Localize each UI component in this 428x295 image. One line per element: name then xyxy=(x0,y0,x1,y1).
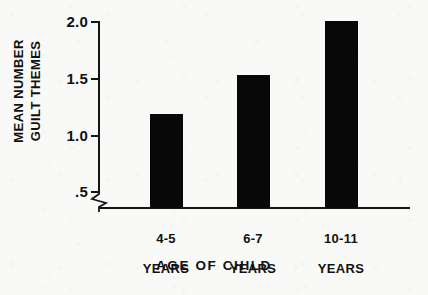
y-tick-label-1-0: 1.0 xyxy=(67,128,88,143)
x-tick-label-10-11-years-line-1: 10-11 xyxy=(291,231,391,246)
x-tick-label-10-11-years: 10-11 YEARS xyxy=(291,216,391,291)
x-axis-title: AGE OF CHILD xyxy=(0,258,428,273)
axis-break-icon xyxy=(88,186,110,212)
x-tick-label-4-5-years-line-1: 4-5 xyxy=(116,231,216,246)
y-tick-label-2-0-wrap: 2.0 xyxy=(52,14,88,28)
y-axis-title-line-2: GUILT THEMES xyxy=(27,26,44,156)
y-tick-label-0-5: .5 xyxy=(75,184,88,199)
bar-6-7-years xyxy=(237,75,270,208)
y-tick-mark-1-0 xyxy=(91,135,99,137)
y-tick-label-2-0: 2.0 xyxy=(67,14,88,29)
y-axis-title-line-1: MEAN NUMBER xyxy=(10,26,27,156)
bar-chart-figure: MEAN NUMBER GUILT THEMES 2.0 1.5 1.0 .5 xyxy=(0,0,428,295)
y-axis-title: MEAN NUMBER GUILT THEMES xyxy=(10,26,44,156)
y-tick-label-1-5: 1.5 xyxy=(67,71,88,86)
y-tick-label-1-5-wrap: 1.5 xyxy=(52,71,88,85)
plot-area: MEAN NUMBER GUILT THEMES 2.0 1.5 1.0 .5 xyxy=(0,0,428,295)
x-tick-label-4-5-years: 4-5 YEARS xyxy=(116,216,216,291)
bar-4-5-years xyxy=(150,114,183,208)
y-tick-label-1-0-wrap: 1.0 xyxy=(52,128,88,142)
y-tick-label-0-5-wrap: .5 xyxy=(52,184,88,198)
x-tick-label-6-7-years-line-1: 6-7 xyxy=(203,231,303,246)
y-axis-line xyxy=(98,21,100,193)
x-tick-label-6-7-years: 6-7 YEARS xyxy=(203,216,303,291)
y-tick-mark-1-5 xyxy=(91,78,99,80)
y-tick-mark-2-0 xyxy=(91,21,99,23)
bar-10-11-years xyxy=(325,21,358,208)
